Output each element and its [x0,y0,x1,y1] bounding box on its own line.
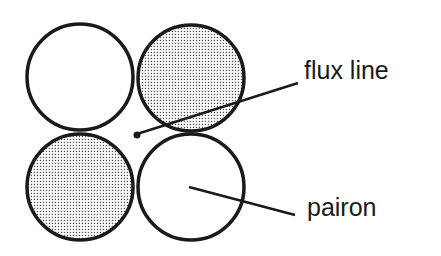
flux-line-label: flux line [304,58,389,83]
pairon-circle-top-left [27,24,133,130]
pairon-circle-bottom-left [27,134,133,240]
pairon-label: pairon [307,195,377,220]
pairon-circle-top-right [138,25,244,131]
